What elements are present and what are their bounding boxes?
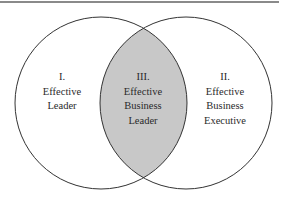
region-text: Executive [185, 114, 265, 129]
region-text: Business [185, 99, 265, 114]
region-label-effective-business-leader: III. Effective Business Leader [103, 70, 183, 128]
region-text: Business [103, 99, 183, 114]
region-numeral: III. [103, 70, 183, 85]
region-label-effective-leader: I. Effective Leader [22, 70, 102, 114]
region-text: Effective [185, 85, 265, 100]
region-text: Leader [103, 114, 183, 129]
region-text: Effective [22, 85, 102, 100]
region-label-effective-business-executive: II. Effective Business Executive [185, 70, 265, 128]
region-text: Effective [103, 85, 183, 100]
region-numeral: II. [185, 70, 265, 85]
region-text: Leader [22, 99, 102, 114]
region-numeral: I. [22, 70, 102, 85]
